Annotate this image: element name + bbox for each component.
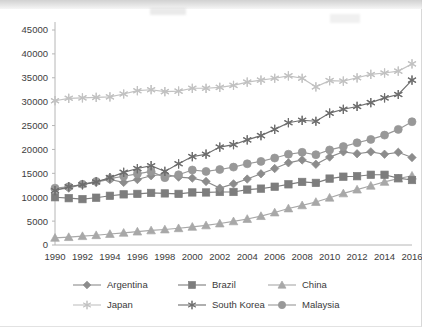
- data-point-marker: [312, 82, 320, 91]
- data-point-marker: [381, 171, 388, 178]
- legend-label: Brazil: [212, 279, 236, 290]
- data-point-marker: [230, 188, 237, 195]
- data-point-marker: [408, 118, 416, 126]
- legend-item-malaysia[interactable]: Malaysia: [268, 299, 340, 310]
- y-tick-label: 35000: [22, 72, 48, 83]
- data-point-marker: [134, 190, 141, 197]
- data-point-marker: [278, 301, 285, 308]
- x-tick-label: 1998: [154, 251, 175, 262]
- data-point-marker: [381, 93, 389, 102]
- data-point-marker: [339, 143, 347, 151]
- data-point-marker: [175, 190, 182, 197]
- data-point-marker: [312, 179, 319, 186]
- legend-label: Argentina: [107, 279, 148, 290]
- data-point-marker: [188, 174, 196, 182]
- data-point-marker: [83, 281, 91, 289]
- data-point-marker: [408, 59, 416, 68]
- data-point-marker: [312, 160, 320, 168]
- y-tick-label: 40000: [22, 48, 48, 59]
- data-point-marker: [285, 181, 292, 188]
- data-point-marker: [188, 166, 196, 174]
- data-point-marker: [175, 171, 183, 179]
- data-point-marker: [189, 282, 196, 289]
- y-tick-label: 45000: [22, 24, 48, 35]
- y-tick-label: 5000: [27, 216, 48, 227]
- data-point-marker: [92, 194, 99, 201]
- x-tick-label: 2006: [264, 251, 285, 262]
- data-point-marker: [326, 146, 334, 154]
- data-point-marker: [326, 109, 334, 118]
- data-point-marker: [353, 139, 361, 147]
- data-point-marker: [298, 148, 306, 156]
- data-point-marker: [120, 191, 127, 198]
- data-point-marker: [161, 190, 168, 197]
- data-point-marker: [284, 150, 292, 158]
- y-tick-label: 20000: [22, 144, 48, 155]
- data-point-marker: [175, 159, 183, 168]
- x-tick-label: 1992: [72, 251, 93, 262]
- data-point-marker: [147, 189, 154, 196]
- data-point-marker: [79, 195, 86, 202]
- legend-item-south-korea[interactable]: South Korea: [178, 299, 266, 310]
- data-point-marker: [230, 163, 238, 171]
- y-tick-label: 15000: [22, 168, 48, 179]
- x-tick-label: 2008: [292, 251, 313, 262]
- legend-item-japan[interactable]: Japan: [73, 299, 133, 310]
- data-point-marker: [298, 178, 305, 185]
- data-series-group: [51, 59, 417, 241]
- data-point-marker: [271, 125, 279, 134]
- legend-item-china[interactable]: China: [268, 279, 328, 290]
- data-point-marker: [298, 156, 306, 164]
- data-point-marker: [202, 189, 209, 196]
- data-point-marker: [202, 167, 210, 175]
- x-tick-label: 1996: [127, 251, 148, 262]
- data-point-marker: [216, 166, 224, 174]
- data-point-marker: [367, 135, 375, 143]
- y-tick-label: 30000: [22, 96, 48, 107]
- data-point-marker: [353, 73, 361, 82]
- data-point-marker: [340, 173, 347, 180]
- data-point-marker: [189, 189, 196, 196]
- data-point-marker: [284, 159, 292, 167]
- x-tick-label: 2016: [401, 251, 422, 262]
- x-tick-label: 2000: [182, 251, 203, 262]
- x-tick-label: 2002: [209, 251, 230, 262]
- data-point-marker: [202, 177, 210, 185]
- data-point-marker: [394, 148, 402, 156]
- legend-item-argentina[interactable]: Argentina: [73, 279, 148, 290]
- data-point-marker: [367, 171, 374, 178]
- data-point-marker: [229, 180, 237, 188]
- data-point-marker: [243, 135, 251, 144]
- data-point-marker: [257, 157, 265, 165]
- data-point-marker: [353, 150, 361, 158]
- legend-label: South Korea: [212, 299, 266, 310]
- legend-label: Malaysia: [302, 299, 340, 310]
- chart-legend: ArgentinaBrazilChinaJapanSouth KoreaMala…: [73, 279, 340, 310]
- data-point-marker: [326, 175, 333, 182]
- x-tick-label: 1990: [44, 251, 65, 262]
- data-point-marker: [353, 173, 360, 180]
- x-tick-label: 2014: [374, 251, 395, 262]
- data-point-marker: [380, 150, 388, 158]
- x-tick-label: 2010: [319, 251, 340, 262]
- plot-area-wrapper: 0500010000150002000025000300003500040000…: [0, 0, 422, 327]
- data-point-marker: [408, 153, 416, 161]
- data-point-marker: [106, 192, 113, 199]
- data-point-marker: [408, 176, 415, 183]
- y-axis-tick-labels: 0500010000150002000025000300003500040000…: [22, 24, 55, 250]
- legend-item-brazil[interactable]: Brazil: [178, 279, 236, 290]
- data-point-marker: [257, 131, 265, 140]
- x-axis-tick-labels: 1990199219941996199820002002200420062008…: [44, 251, 422, 262]
- data-point-marker: [243, 175, 251, 183]
- legend-label: China: [302, 279, 328, 290]
- data-point-marker: [394, 125, 402, 133]
- data-point-marker: [257, 170, 265, 178]
- data-point-marker: [65, 194, 72, 201]
- data-point-marker: [367, 148, 375, 156]
- data-point-marker: [244, 186, 251, 193]
- series-south-korea: [51, 76, 416, 196]
- x-tick-label: 1994: [99, 251, 120, 262]
- chart-figure: 0500010000150002000025000300003500040000…: [0, 0, 422, 327]
- data-point-marker: [271, 183, 278, 190]
- y-tick-label: 10000: [22, 192, 48, 203]
